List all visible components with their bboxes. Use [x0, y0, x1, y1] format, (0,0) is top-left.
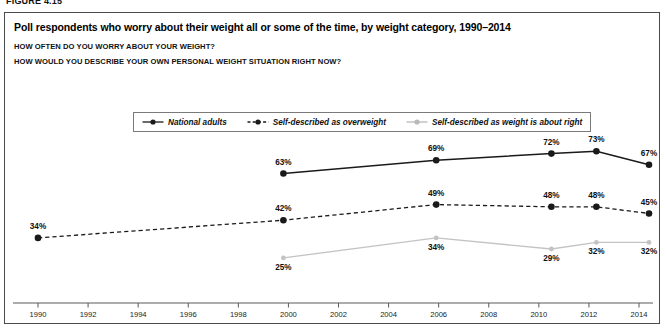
- data-point-label: 45%: [641, 198, 657, 207]
- data-point-label: 32%: [588, 247, 604, 256]
- figure-number-label: FIGURE 4.15: [6, 0, 62, 6]
- data-point-label: 32%: [641, 247, 657, 256]
- data-point-label: 48%: [588, 191, 604, 200]
- data-point-label: 73%: [588, 135, 604, 144]
- data-point-label: 25%: [275, 263, 291, 272]
- data-point-label: 34%: [30, 222, 46, 231]
- data-point-label: 63%: [275, 158, 291, 167]
- x-axis-tick-label: 2000: [280, 310, 297, 319]
- x-axis-tick-label: 2002: [330, 310, 347, 319]
- chart-plot-area: 1990199219941996199820002002200420062008…: [5, 13, 661, 325]
- x-axis-tick-label: 1990: [30, 310, 47, 319]
- x-axis-tick-label: 2006: [430, 310, 447, 319]
- chart-overlay: 1990199219941996199820002002200420062008…: [5, 13, 661, 325]
- x-axis-tick-label: 2010: [530, 310, 547, 319]
- data-point-label: 34%: [428, 243, 444, 252]
- x-axis-tick-label: 1998: [230, 310, 247, 319]
- x-axis-tick-label: 2004: [380, 310, 397, 319]
- data-point-label: 72%: [543, 138, 559, 147]
- data-point-label: 48%: [543, 191, 559, 200]
- x-axis-tick-label: 1994: [130, 310, 147, 319]
- data-point-label: 42%: [275, 204, 291, 213]
- figure-root: FIGURE 4.15 Poll respondents who worry a…: [0, 0, 666, 332]
- data-point-label: 49%: [428, 189, 444, 198]
- x-axis-tick-label: 1992: [80, 310, 97, 319]
- data-point-label: 67%: [641, 149, 657, 158]
- x-axis-tick-label: 2014: [631, 310, 648, 319]
- data-point-label: 29%: [543, 254, 559, 263]
- x-axis-tick-label: 2012: [580, 310, 597, 319]
- x-axis-tick-label: 2008: [480, 310, 497, 319]
- figure-panel: Poll respondents who worry about their w…: [4, 12, 660, 324]
- data-point-label: 69%: [428, 144, 444, 153]
- x-axis-tick-label: 1996: [180, 310, 197, 319]
